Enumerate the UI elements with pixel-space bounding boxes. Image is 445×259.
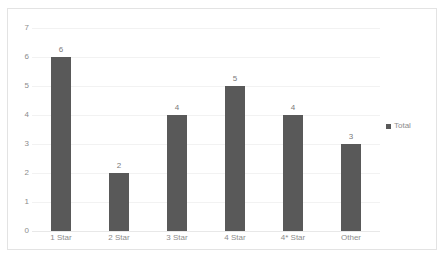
bar-slot: 4 [148, 28, 206, 231]
bar[interactable] [225, 86, 245, 231]
legend: Total [386, 122, 411, 130]
y-axis-tick-label: 2 [25, 169, 29, 177]
bar-value-label: 5 [233, 75, 237, 83]
bar-slot: 5 [206, 28, 264, 231]
bar[interactable] [51, 57, 71, 231]
bar-value-label: 2 [117, 162, 121, 170]
y-axis-tick-label: 6 [25, 53, 29, 61]
bar-series-total: 624543 [32, 28, 380, 231]
bar[interactable] [167, 115, 187, 231]
y-axis-tick-label: 1 [25, 198, 29, 206]
y-axis-tick-label: 7 [25, 24, 29, 32]
legend-swatch-icon [386, 124, 391, 129]
x-axis-category-label: 2 Star [108, 234, 129, 242]
legend-label-total: Total [394, 122, 411, 130]
plot-area: 624543 [32, 28, 380, 231]
bar-value-label: 4 [175, 104, 179, 112]
bar-slot: 6 [32, 28, 90, 231]
y-axis-tick-label: 4 [25, 111, 29, 119]
y-axis-tick-labels: 01234567 [7, 28, 29, 231]
x-axis-category-labels: 1 Star2 Star3 Star4 Star4* StarOther [32, 234, 380, 248]
bar[interactable] [109, 173, 129, 231]
bar[interactable] [283, 115, 303, 231]
bar-slot: 3 [322, 28, 380, 231]
x-axis-category-label: 1 Star [50, 234, 71, 242]
y-axis-tick-label: 5 [25, 82, 29, 90]
bar-value-label: 4 [291, 104, 295, 112]
y-axis-tick-label: 0 [25, 227, 29, 235]
x-axis-category-label: 4* Star [281, 234, 305, 242]
bar-value-label: 3 [349, 133, 353, 141]
x-axis-category-label: 4 Star [224, 234, 245, 242]
bar-slot: 4 [264, 28, 322, 231]
bar-chart: 01234567 624543 1 Star2 Star3 Star4 Star… [0, 0, 445, 259]
bar-value-label: 6 [59, 46, 63, 54]
gridline [32, 231, 380, 232]
bar-slot: 2 [90, 28, 148, 231]
x-axis-category-label: 3 Star [166, 234, 187, 242]
y-axis-tick-label: 3 [25, 140, 29, 148]
bar[interactable] [341, 144, 361, 231]
x-axis-category-label: Other [341, 234, 361, 242]
